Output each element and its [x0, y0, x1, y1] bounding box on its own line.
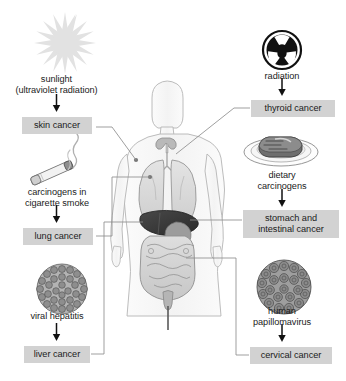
- diet-caption: dietary carcinogens: [232, 170, 332, 192]
- sunlight-caption-line2: (ultraviolet radiation): [0, 85, 113, 96]
- liver-cancer-label[interactable]: liver cancer: [24, 346, 90, 363]
- stomach-intestinal-cancer-label[interactable]: stomach and intestinal cancer: [243, 210, 339, 238]
- cigarette-caption-line1: carcinogens in: [2, 187, 112, 198]
- cigarette-smoke-icon: [30, 134, 78, 186]
- cigarette-caption: carcinogens in cigarette smoke: [2, 187, 112, 209]
- diet-caption-line1: dietary: [232, 170, 332, 181]
- hpv-caption-line1: human: [228, 306, 336, 317]
- stomach-label-line2: intestinal cancer: [249, 224, 333, 235]
- sun-starburst-icon: [34, 12, 96, 74]
- cigarette-caption-line2: cigarette smoke: [2, 198, 112, 209]
- hepatitis-caption: viral hepatitis: [6, 311, 108, 322]
- thyroid-cancer-label[interactable]: thyroid cancer: [251, 100, 335, 117]
- arrow-hepatitis-to-liver: [53, 323, 60, 341]
- cervical-cancer-label[interactable]: cervical cancer: [250, 347, 332, 364]
- sunlight-caption: sunlight (ultraviolet radiation): [0, 74, 113, 96]
- cancer-causes-diagram: sunlight (ultraviolet radiation) skin ca…: [0, 0, 346, 381]
- sunlight-caption-line1: sunlight: [0, 74, 113, 85]
- lung-cancer-label[interactable]: lung cancer: [23, 228, 93, 245]
- arrow-sunlight-to-skin: [53, 94, 60, 112]
- radiation-trefoil-icon: [263, 31, 301, 69]
- radiation-caption: radiation: [232, 71, 332, 82]
- steak-on-plate-icon: [244, 137, 318, 166]
- skin-cancer-label[interactable]: skin cancer: [22, 117, 92, 134]
- hpv-caption-line2: papillomavirus: [228, 317, 336, 328]
- hpv-caption: human papillomavirus: [228, 306, 336, 328]
- hepatitis-virus-icon: [37, 264, 88, 314]
- stomach-label-line1: stomach and: [249, 213, 333, 224]
- diet-caption-line2: carcinogens: [232, 181, 332, 192]
